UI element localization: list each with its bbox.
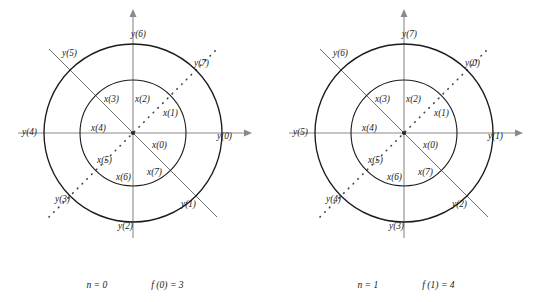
outer-label-1: y(2) [452,200,467,209]
outer-label-3: y(4) [326,195,341,204]
outer-label-7: y(0) [465,59,480,68]
inner-label-5: x(5) [97,156,112,165]
inner-label-0: x(0) [423,141,438,150]
outer-label-6: y(6) [131,30,146,39]
inner-label-4: x(4) [91,124,106,133]
outer-label-7: y(7) [194,59,209,68]
inner-label-7: x(7) [147,168,162,177]
caption-right: n = 1f (1) = 4 [271,279,541,290]
caption-left-f: f (0) = 3 [151,279,183,290]
diagram-left: y(0) y(1) y(2) y(3) y(4) y(5) y(6) y(7) … [0,0,270,302]
inner-label-1: x(1) [434,109,449,118]
outer-label-5: y(5) [62,49,77,58]
outer-label-4: y(4) [22,128,37,137]
inner-label-3: x(3) [375,95,390,104]
caption-left: n = 0f (0) = 3 [0,279,270,290]
origin-dot [131,131,135,135]
inner-label-7: x(7) [418,168,433,177]
y-axis-arrow [130,9,137,17]
outer-label-6: y(7) [402,30,417,39]
x-axis-arrow [515,130,523,137]
outer-label-2: y(2) [118,222,133,231]
inner-label-1: x(1) [163,109,178,118]
inner-label-4: x(4) [362,124,377,133]
inner-label-5: x(5) [368,156,383,165]
outer-label-1: y(1) [181,200,196,209]
inner-label-0: x(0) [152,141,167,150]
inner-label-2: x(2) [135,95,150,104]
outer-label-4: y(5) [293,128,308,137]
outer-label-3: y(3) [55,195,70,204]
x-axis-arrow [244,130,252,137]
y-axis-arrow [401,9,408,17]
inner-label-3: x(3) [104,95,119,104]
origin-dot [402,131,406,135]
caption-right-n: n = 1 [357,279,378,290]
outer-label-0: y(1) [488,132,503,141]
inner-label-2: x(2) [406,95,421,104]
inner-label-6: x(6) [387,173,402,182]
caption-left-n: n = 0 [86,279,107,290]
diagram-right: y(1) y(2) y(3) y(4) y(5) y(6) y(7) y(0) … [271,0,541,302]
outer-label-5: y(6) [333,49,348,58]
outer-label-2: y(3) [389,222,404,231]
outer-label-0: y(0) [217,132,232,141]
inner-label-6: x(6) [116,173,131,182]
figure-root: y(0) y(1) y(2) y(3) y(4) y(5) y(6) y(7) … [0,0,541,302]
caption-right-f: f (1) = 4 [422,279,454,290]
